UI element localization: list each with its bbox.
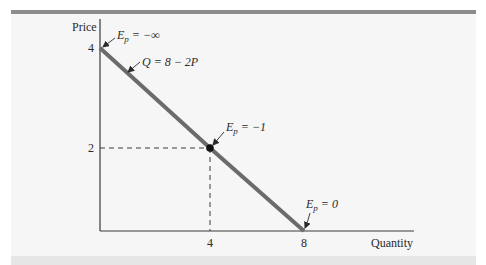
y-axis-label: Price [72, 20, 97, 34]
svg-text:Ep = −1: Ep = −1 [225, 120, 266, 136]
svg-text:Q = 8 − 2P: Q = 8 − 2P [142, 55, 199, 69]
tick-x-8: 8 [301, 236, 307, 250]
demand-chart: Price Quantity 4 2 4 8 Ep = −∞ Q = 8 − 2… [0, 0, 486, 265]
arrow-icon [305, 213, 310, 228]
arrow-icon [103, 38, 115, 47]
annotation-zero-elasticity: Ep = 0 [305, 197, 338, 228]
tick-x-4: 4 [207, 236, 213, 250]
annotation-demand-equation: Q = 8 − 2P [128, 55, 199, 72]
unit-elastic-point [206, 144, 214, 152]
tick-y-4: 4 [88, 41, 94, 55]
x-axis-label: Quantity [371, 236, 413, 250]
svg-text:Ep = 0: Ep = 0 [305, 197, 338, 213]
annotation-unit-elasticity: Ep = −1 [213, 120, 266, 145]
tick-y-2: 2 [88, 141, 94, 155]
arrow-icon [128, 62, 140, 72]
arrow-icon [213, 132, 224, 145]
annotation-infinite-elasticity: Ep = −∞ [103, 28, 160, 47]
demand-curve [100, 48, 304, 231]
svg-text:Ep = −∞: Ep = −∞ [116, 28, 160, 44]
